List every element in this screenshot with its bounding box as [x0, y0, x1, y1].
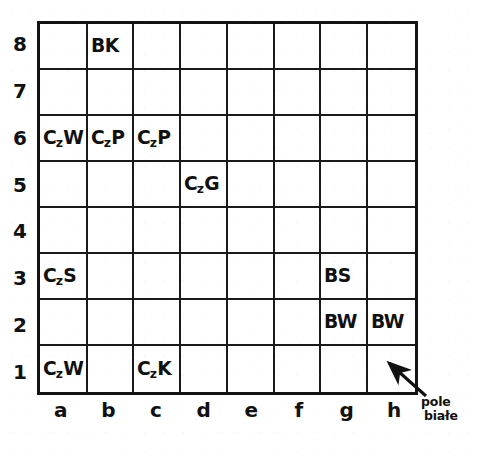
- board-grid: BKCzWCzPCzPCzGCzSBSBWBWCzWCzK: [37, 21, 418, 395]
- board-square-d7[interactable]: [181, 70, 228, 116]
- board-square-b6[interactable]: CzP: [88, 116, 135, 162]
- board-square-b4[interactable]: [88, 208, 135, 254]
- piece-label-a6: CzW: [40, 128, 84, 148]
- board-square-c3[interactable]: [134, 254, 181, 300]
- rank-label-2: 2: [7, 313, 33, 337]
- chess-board-diagram: 87654321 BKCzWCzPCzPCzGCzSBSBWBWCzWCzK a…: [0, 0, 485, 467]
- board-square-f2[interactable]: [275, 300, 322, 346]
- board-square-g3[interactable]: BS: [321, 254, 368, 300]
- board-square-f1[interactable]: [275, 346, 322, 392]
- piece-label-g2: BW: [321, 312, 357, 332]
- board-square-c6[interactable]: CzP: [134, 116, 181, 162]
- board-square-a3[interactable]: CzS: [40, 254, 88, 300]
- file-label-b: b: [85, 398, 133, 422]
- board-square-b7[interactable]: [88, 70, 135, 116]
- board-square-f8[interactable]: [275, 24, 322, 70]
- board-square-d3[interactable]: [181, 254, 228, 300]
- board-square-b1[interactable]: [88, 346, 135, 392]
- board-square-d2[interactable]: [181, 300, 228, 346]
- piece-label-c6: CzP: [134, 128, 171, 148]
- board-square-a7[interactable]: [40, 70, 88, 116]
- rank-label-5: 5: [7, 173, 33, 197]
- board-square-b8[interactable]: BK: [88, 24, 135, 70]
- piece-label-b6: CzP: [88, 128, 125, 148]
- piece-label-c1: CzK: [134, 359, 172, 379]
- board-square-a6[interactable]: CzW: [40, 116, 88, 162]
- file-label-a: a: [37, 398, 85, 422]
- board-square-h2[interactable]: BW: [368, 300, 415, 346]
- board-square-g4[interactable]: [321, 208, 368, 254]
- board-square-f4[interactable]: [275, 208, 322, 254]
- board-square-c5[interactable]: [134, 162, 181, 208]
- annotation-pole-biale: pole białe: [421, 395, 458, 423]
- rank-label-7: 7: [7, 79, 33, 103]
- annotation-line-2: białe: [421, 409, 458, 423]
- board-square-h6[interactable]: [368, 116, 415, 162]
- board-square-g2[interactable]: BW: [321, 300, 368, 346]
- piece-label-h2: BW: [368, 312, 404, 332]
- board-square-f7[interactable]: [275, 70, 322, 116]
- piece-label-d5: CzG: [181, 174, 219, 194]
- board-square-d4[interactable]: [181, 208, 228, 254]
- board-square-g7[interactable]: [321, 70, 368, 116]
- board-square-d6[interactable]: [181, 116, 228, 162]
- board-square-g1[interactable]: [321, 346, 368, 392]
- piece-label-b8: BK: [88, 36, 119, 56]
- file-label-e: e: [228, 398, 276, 422]
- board-square-e7[interactable]: [228, 70, 275, 116]
- board-square-h5[interactable]: [368, 162, 415, 208]
- rank-label-1: 1: [7, 360, 33, 384]
- board-square-d8[interactable]: [181, 24, 228, 70]
- board-square-b5[interactable]: [88, 162, 135, 208]
- board-square-g6[interactable]: [321, 116, 368, 162]
- board-square-a4[interactable]: [40, 208, 88, 254]
- board-square-b3[interactable]: [88, 254, 135, 300]
- board-square-h7[interactable]: [368, 70, 415, 116]
- board-square-d5[interactable]: CzG: [181, 162, 228, 208]
- rank-label-6: 6: [7, 126, 33, 150]
- board-square-c1[interactable]: CzK: [134, 346, 181, 392]
- rank-label-4: 4: [7, 219, 33, 243]
- file-label-f: f: [275, 398, 323, 422]
- board-square-g8[interactable]: [321, 24, 368, 70]
- board-square-f5[interactable]: [275, 162, 322, 208]
- board-square-b2[interactable]: [88, 300, 135, 346]
- board-square-e1[interactable]: [228, 346, 275, 392]
- board-square-c7[interactable]: [134, 70, 181, 116]
- board-square-a5[interactable]: [40, 162, 88, 208]
- board-square-g5[interactable]: [321, 162, 368, 208]
- rank-label-8: 8: [7, 32, 33, 56]
- board-square-f3[interactable]: [275, 254, 322, 300]
- board-square-c8[interactable]: [134, 24, 181, 70]
- file-label-d: d: [180, 398, 228, 422]
- board-square-d1[interactable]: [181, 346, 228, 392]
- piece-label-a1: CzW: [40, 359, 84, 379]
- file-label-c: c: [132, 398, 180, 422]
- board-square-h8[interactable]: [368, 24, 415, 70]
- board-square-e6[interactable]: [228, 116, 275, 162]
- board-square-e4[interactable]: [228, 208, 275, 254]
- board-square-e8[interactable]: [228, 24, 275, 70]
- board-square-f6[interactable]: [275, 116, 322, 162]
- annotation-line-1: pole: [421, 395, 458, 409]
- board-square-c2[interactable]: [134, 300, 181, 346]
- board-square-h4[interactable]: [368, 208, 415, 254]
- piece-label-a3: CzS: [40, 266, 77, 286]
- board-square-e5[interactable]: [228, 162, 275, 208]
- piece-label-g3: BS: [321, 266, 351, 286]
- board-square-a8[interactable]: [40, 24, 88, 70]
- board-square-e2[interactable]: [228, 300, 275, 346]
- board-square-a1[interactable]: CzW: [40, 346, 88, 392]
- board-square-e3[interactable]: [228, 254, 275, 300]
- board-square-h3[interactable]: [368, 254, 415, 300]
- file-label-g: g: [323, 398, 371, 422]
- board-square-c4[interactable]: [134, 208, 181, 254]
- board-square-a2[interactable]: [40, 300, 88, 346]
- rank-label-3: 3: [7, 266, 33, 290]
